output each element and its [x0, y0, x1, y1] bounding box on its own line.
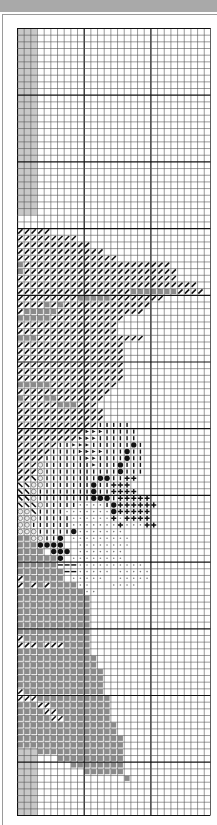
gray-square-icon: [24, 382, 29, 387]
diagonal-stitch-icon: [152, 296, 156, 300]
small-dot-icon: [133, 577, 135, 579]
vertical-bar-icon: [126, 430, 127, 434]
triangle-icon: [79, 443, 82, 446]
diagonal-stitch-icon: [18, 329, 22, 333]
diagonal-stitch-icon: [92, 376, 96, 380]
frame-border-top: [2, 14, 217, 15]
diagonal-stitch-icon: [45, 296, 49, 300]
diagonal-stitch-icon: [118, 269, 122, 273]
gray-square-icon: [78, 589, 83, 594]
vertical-bar-icon: [60, 450, 61, 454]
diagonal-stitch-icon: [145, 276, 149, 280]
vertical-bar-icon: [40, 496, 41, 500]
diagonal-stitch-icon: [58, 256, 62, 260]
diagonal-stitch-icon: [58, 423, 62, 427]
diagonal-stitch-icon: [25, 256, 29, 260]
small-dot-icon: [120, 544, 122, 546]
gray-square-icon: [24, 556, 29, 561]
diagonal-stitch-icon: [32, 443, 36, 447]
backslash-stitch-icon: [25, 503, 29, 507]
diagonal-stitch-icon: [78, 323, 82, 327]
circle-icon: [18, 529, 23, 534]
diagonal-stitch-icon: [112, 296, 116, 300]
gray-square-icon: [64, 716, 69, 721]
gray-square-icon: [18, 536, 23, 541]
gray-square-icon: [71, 676, 76, 681]
diagonal-stitch-icon: [72, 263, 76, 267]
gray-square-icon: [31, 596, 36, 601]
diagonal-stitch-icon: [52, 316, 56, 320]
black-dot-icon: [91, 482, 96, 487]
diagonal-stitch-icon: [105, 316, 109, 320]
diagonal-stitch-icon: [172, 269, 176, 273]
small-dot-icon: [80, 544, 82, 546]
diagonal-stitch-icon: [18, 249, 22, 253]
diagonal-stitch-icon: [65, 296, 69, 300]
vertical-bar-icon: [66, 483, 67, 487]
diagonal-stitch-icon: [18, 476, 22, 480]
diagonal-stitch-icon: [65, 323, 69, 327]
gray-square-icon: [78, 716, 83, 721]
vertical-bar-icon: [120, 456, 121, 460]
gray-square-icon: [78, 669, 83, 674]
gray-square-icon: [71, 609, 76, 614]
gray-square-icon: [31, 569, 36, 574]
diagonal-stitch-icon: [185, 283, 189, 287]
diagonal-stitch-icon: [145, 296, 149, 300]
gray-square-icon: [18, 742, 23, 747]
gray-square-icon: [105, 709, 110, 714]
diagonal-stitch-icon: [18, 343, 22, 347]
vertical-bar-icon: [126, 436, 127, 440]
diagonal-stitch-icon: [58, 283, 62, 287]
diagonal-stitch-icon: [72, 336, 76, 340]
diagonal-stitch-icon: [92, 303, 96, 307]
vertical-bar-icon: [60, 510, 61, 514]
diagonal-stitch-icon: [52, 376, 56, 380]
diagonal-stitch-icon: [18, 289, 22, 293]
diagonal-stitch-icon: [32, 296, 36, 300]
diagonal-stitch-icon: [25, 356, 29, 360]
diagonal-stitch-icon: [72, 243, 76, 247]
diagonal-stitch-icon: [78, 276, 82, 280]
diagonal-stitch-icon: [58, 343, 62, 347]
gray-square-icon: [44, 596, 49, 601]
diagonal-stitch-icon: [25, 423, 29, 427]
diagonal-stitch-icon: [112, 263, 116, 267]
backslash-stitch-icon: [25, 483, 29, 487]
small-dot-icon: [100, 557, 102, 559]
small-dot-icon: [126, 577, 128, 579]
diagonal-stitch-icon: [85, 416, 89, 420]
circle-icon: [25, 523, 30, 528]
gray-square-icon: [71, 709, 76, 714]
small-dot-icon: [126, 544, 128, 546]
gray-square-icon: [64, 629, 69, 634]
vertical-bar-icon: [100, 443, 101, 447]
diagonal-stitch-icon: [78, 256, 82, 260]
gray-square-icon: [44, 742, 49, 747]
gray-square-icon: [44, 602, 49, 607]
gray-square-icon: [118, 763, 123, 768]
diagonal-stitch-icon: [85, 369, 89, 373]
diagonal-stitch-icon: [92, 383, 96, 387]
vertical-bar-icon: [106, 436, 107, 440]
circle-icon: [31, 536, 36, 541]
diagonal-stitch-icon: [138, 336, 142, 340]
small-dot-icon: [80, 504, 82, 506]
small-dot-icon: [100, 531, 102, 533]
gray-square-icon: [91, 709, 96, 714]
diagonal-stitch-icon: [52, 236, 56, 240]
diagonal-stitch-icon: [112, 343, 116, 347]
circle-icon: [31, 483, 36, 488]
vertical-bar-icon: [46, 476, 47, 480]
diagonal-stitch-icon: [52, 249, 56, 253]
diagonal-stitch-icon: [78, 416, 82, 420]
black-dot-icon: [91, 496, 96, 501]
diagonal-stitch-icon: [38, 429, 42, 433]
black-dot-icon: [118, 469, 123, 474]
gray-square-icon: [111, 749, 116, 754]
gray-square-icon: [58, 676, 63, 681]
diagonal-stitch-icon: [45, 449, 49, 453]
plus-icon: [145, 516, 150, 521]
gray-square-icon: [71, 702, 76, 707]
gray-square-icon: [38, 649, 43, 654]
